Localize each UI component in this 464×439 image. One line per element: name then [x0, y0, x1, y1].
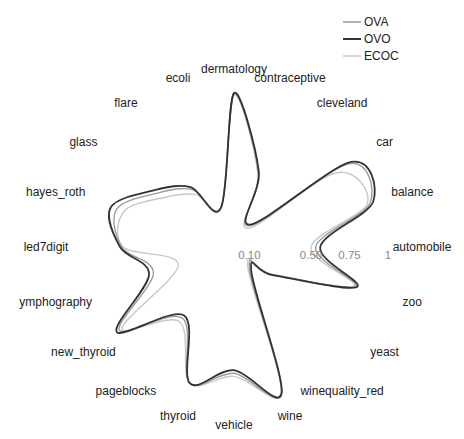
category-label-yeast: yeast [370, 345, 399, 359]
category-label-thyroid: thyroid [160, 409, 196, 423]
series-line-ecoc [118, 94, 368, 397]
category-label-winequality-red: winequality_red [299, 384, 383, 398]
category-label-lymphography: ymphography [19, 295, 92, 309]
category-label-dermatology: dermatology [201, 62, 267, 76]
tick-label: 0.50 [300, 249, 322, 261]
category-label-hayes-roth: hayes_roth [26, 185, 85, 199]
category-label-glass: glass [69, 135, 97, 149]
category-label-led7digit: led7digit [24, 240, 69, 254]
tick-label: 1 [385, 249, 391, 261]
series-line-ovo [109, 93, 375, 398]
radial-tick-labels: 0.10 0.50 0.75 1 [238, 249, 391, 261]
category-label-cleveland: cleveland [317, 96, 368, 110]
category-label-car: car [376, 135, 393, 149]
radar-chart: 0.10 0.50 0.75 1 automobile balance car … [0, 0, 464, 439]
category-label-vehicle: vehicle [215, 418, 253, 432]
category-label-new-thyroid: new_thyroid [51, 345, 116, 359]
category-label-zoo: zoo [403, 295, 423, 309]
legend-item-ecoc[interactable]: ECOC [343, 49, 399, 63]
category-label-automobile: automobile [393, 240, 452, 254]
legend-label-ovo: OVO [364, 32, 391, 46]
legend: OVA OVO ECOC [343, 15, 399, 63]
series-line-ova [114, 94, 372, 398]
category-label-pageblocks: pageblocks [96, 384, 157, 398]
legend-label-ova: OVA [364, 15, 388, 29]
tick-label: 0.10 [238, 249, 260, 261]
series-layer [109, 93, 375, 399]
legend-item-ova[interactable]: OVA [343, 15, 388, 29]
category-label-balance: balance [391, 185, 433, 199]
legend-item-ovo[interactable]: OVO [343, 32, 391, 46]
legend-label-ecoc: ECOC [364, 49, 399, 63]
tick-label: 0.75 [338, 249, 360, 261]
category-label-ecoli: ecoli [166, 71, 191, 85]
category-label-flare: flare [114, 96, 138, 110]
category-label-wine: wine [277, 409, 303, 423]
